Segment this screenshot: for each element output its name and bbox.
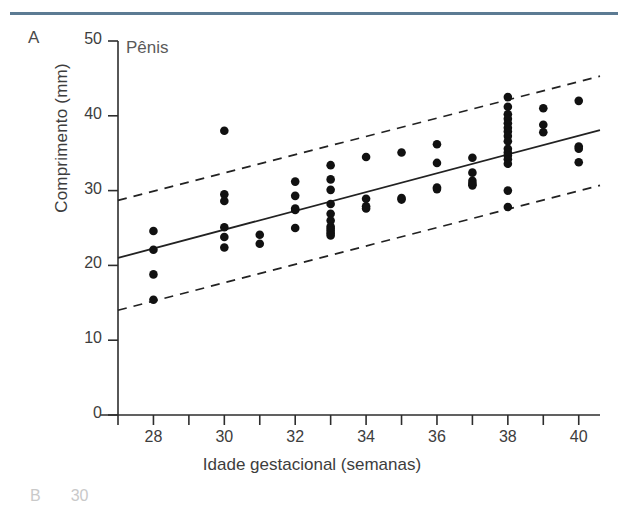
reference-band-line <box>118 185 600 310</box>
next-panel-label: B <box>30 487 41 504</box>
data-point <box>362 204 371 213</box>
x-tick-label: 38 <box>488 428 528 446</box>
data-point <box>149 270 158 279</box>
data-point <box>255 239 264 248</box>
data-point <box>574 97 583 106</box>
axes-group <box>100 41 600 415</box>
data-point <box>468 153 477 162</box>
x-tick-label: 28 <box>133 428 173 446</box>
data-point <box>362 195 371 204</box>
data-point <box>433 159 442 168</box>
x-tick-label: 30 <box>204 428 244 446</box>
data-point <box>574 144 583 153</box>
data-point <box>433 185 442 194</box>
data-point <box>433 140 442 149</box>
data-point <box>326 231 335 240</box>
x-tick-label: 36 <box>417 428 457 446</box>
data-points-group <box>149 93 583 304</box>
data-point <box>220 243 229 252</box>
data-point <box>326 175 335 184</box>
data-point <box>504 186 513 195</box>
data-point <box>326 161 335 170</box>
data-point <box>326 200 335 209</box>
data-point <box>220 126 229 135</box>
data-point <box>220 233 229 242</box>
x-axis-ticks <box>118 415 579 425</box>
y-tick-label: 20 <box>56 254 102 272</box>
x-tick-label: 34 <box>346 428 386 446</box>
data-point <box>397 148 406 157</box>
regression-fit-line <box>118 130 600 258</box>
data-point <box>504 103 513 112</box>
y-tick-label: 50 <box>56 30 102 48</box>
data-point <box>291 192 300 201</box>
y-tick-label: 0 <box>56 404 102 422</box>
next-panel-tick: 30 <box>71 487 89 504</box>
next-panel-fragment: B30 <box>30 487 88 505</box>
data-point <box>539 120 548 129</box>
regression-line <box>118 130 600 258</box>
y-tick-label: 30 <box>56 180 102 198</box>
y-tick-label: 10 <box>56 329 102 347</box>
data-point <box>504 93 513 102</box>
data-point <box>504 137 513 146</box>
data-point <box>504 159 513 168</box>
reference-band-line <box>118 76 600 200</box>
figure-panel-a: A Pênis Comprimento (mm) Idade gestacion… <box>0 0 624 509</box>
y-tick-label: 40 <box>56 105 102 123</box>
data-point <box>468 168 477 177</box>
data-point <box>291 177 300 186</box>
data-point <box>362 153 371 162</box>
data-point <box>574 158 583 167</box>
data-point <box>468 181 477 190</box>
data-point <box>149 245 158 254</box>
data-point <box>220 223 229 232</box>
data-point <box>504 203 513 212</box>
data-point <box>326 186 335 195</box>
x-tick-label: 40 <box>559 428 599 446</box>
data-point <box>149 296 158 305</box>
data-point <box>539 104 548 113</box>
data-point <box>291 206 300 215</box>
x-tick-label: 32 <box>275 428 315 446</box>
data-point <box>539 128 548 137</box>
data-point <box>149 227 158 236</box>
data-point <box>220 197 229 206</box>
data-point <box>397 195 406 204</box>
data-point <box>291 224 300 233</box>
y-axis-ticks <box>108 41 118 415</box>
data-point <box>255 230 264 239</box>
